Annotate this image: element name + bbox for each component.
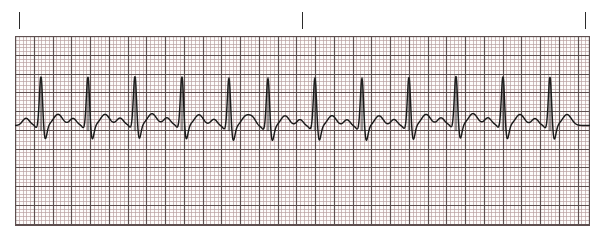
timing-tick-1 bbox=[19, 12, 20, 29]
ecg-grid-canvas bbox=[15, 36, 590, 226]
timing-tick-3 bbox=[585, 12, 586, 29]
ecg-graph-paper bbox=[15, 36, 590, 226]
timing-tick-2 bbox=[302, 12, 303, 29]
timing-tick-row bbox=[0, 0, 604, 36]
ecg-strip-page bbox=[0, 0, 604, 242]
